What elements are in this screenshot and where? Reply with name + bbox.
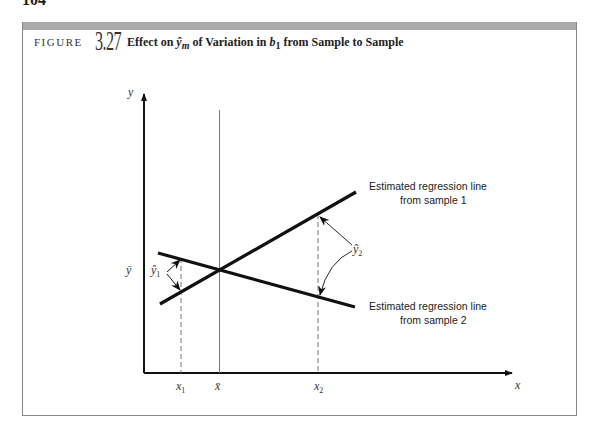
regression-diagram: y x ȳ x̄ x1 x2 ŷ1 ŷ2 Estimated regressio…	[0, 0, 601, 443]
yhat1-arrow-down	[167, 274, 180, 290]
ybar-label: ȳ	[125, 263, 132, 277]
x2-label: x2	[313, 379, 323, 395]
yhat1-label: ŷ1	[150, 263, 160, 279]
line1-label-a: Estimated regression line	[369, 180, 487, 192]
yhat2-label: ŷ2	[352, 242, 362, 258]
x-axis-label: x	[514, 378, 521, 392]
yhat2-arrow-up	[320, 217, 352, 245]
yhat2-arrow-down	[320, 251, 352, 295]
y-axis-label: y	[127, 85, 134, 99]
line1-label-b: from sample 1	[400, 194, 467, 206]
yhat1-arrow-up	[167, 260, 180, 272]
regression-line-sample-1	[160, 192, 356, 304]
line2-label-b: from sample 2	[400, 314, 467, 326]
x1-label: x1	[175, 379, 185, 395]
line2-label-a: Estimated regression line	[369, 300, 487, 312]
regression-line-sample-2	[158, 253, 355, 307]
xbar-label: x̄	[214, 379, 221, 393]
